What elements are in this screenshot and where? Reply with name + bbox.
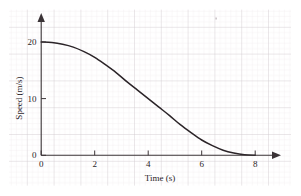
x-tick-label-0: 0 — [39, 159, 44, 169]
x-tick-label-2: 2 — [92, 159, 97, 169]
y-axis-title: Speed (m/s) — [14, 76, 24, 119]
y-tick-label-10: 10 — [28, 94, 38, 104]
chart-canvas: 0 2 4 6 8 0 10 20 Time (s) Speed (m/s) — [0, 0, 301, 196]
x-tick-label-6: 6 — [199, 159, 204, 169]
y-tick-label-20: 20 — [28, 37, 38, 47]
scan-artifacts — [216, 18, 217, 20]
x-tick-label-8: 8 — [253, 159, 258, 169]
speed-time-graph-figure: 0 2 4 6 8 0 10 20 Time (s) Speed (m/s) — [0, 0, 301, 196]
x-tick-label-4: 4 — [146, 159, 151, 169]
y-tick-label-0: 0 — [32, 150, 37, 160]
scan-speck — [216, 18, 217, 20]
x-axis-title: Time (s) — [145, 173, 175, 183]
